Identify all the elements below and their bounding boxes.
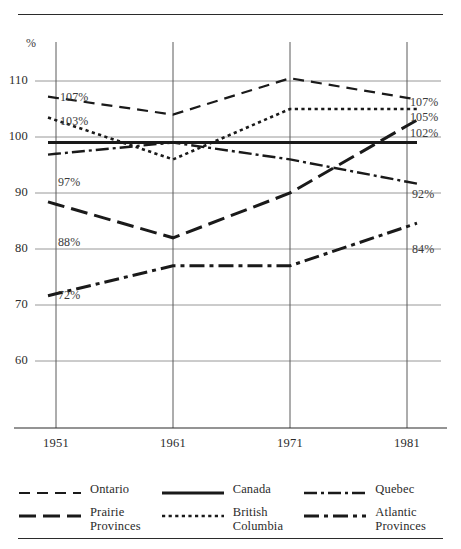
x-tick-label-1971: 1971 [265,436,315,451]
legend-label: Quebec [375,483,414,497]
legend-item-quebec[interactable]: Quebec [303,483,446,504]
legend-column-1: CanadaBritishColumbia [161,483,304,533]
legend-item-atlantic[interactable]: AtlanticProvinces [303,506,446,527]
legend-label-line2: Columbia [233,520,284,534]
y-axis-unit-label: % [26,36,36,51]
legend-label: BritishColumbia [233,506,284,533]
series-line-atlantic-provinces [48,223,417,296]
data-label-right-2: 102% [410,126,438,141]
chart-page: %110100908070601951196119711981107%103%9… [0,0,461,549]
x-tick-label-1961: 1961 [148,436,198,451]
data-label-right-4: 84% [412,242,434,257]
legend-item-british[interactable]: BritishColumbia [161,506,304,527]
legend-label: AtlanticProvinces [375,506,426,533]
data-label-left-2: 97% [58,175,80,190]
legend-label: Canada [233,483,271,497]
legend-label-line1: Ontario [90,483,129,497]
y-tick-label-100: 100 [0,129,28,144]
bottom-rule [18,538,443,539]
y-tick-label-70: 70 [0,297,28,312]
chart-legend: OntarioPrairieProvincesCanadaBritishColu… [18,483,446,533]
legend-column-0: OntarioPrairieProvinces [18,483,161,533]
y-tick-label-110: 110 [0,73,28,88]
data-label-left-3: 88% [58,235,80,250]
y-tick-label-90: 90 [0,185,28,200]
legend-item-ontario[interactable]: Ontario [18,483,161,504]
legend-label-line1: Atlantic [375,506,426,520]
data-label-right-3: 92% [412,187,434,202]
legend-line-swatch-icon [161,486,225,500]
legend-line-swatch-icon [161,509,225,523]
legend-item-prairie[interactable]: PrairieProvinces [18,506,161,527]
legend-line-swatch-icon [18,486,82,500]
legend-label-line1: British [233,506,284,520]
x-tick-label-1981: 1981 [382,436,432,451]
y-tick-label-60: 60 [0,353,28,368]
data-label-left-0: 107% [60,90,88,105]
series-line-prairie-provinces [48,120,417,238]
legend-label-line2: Provinces [90,520,141,534]
series-line-quebec [48,143,417,184]
legend-label-line1: Prairie [90,506,141,520]
data-label-left-4: 72% [58,288,80,303]
legend-label-line2: Provinces [375,520,426,534]
top-rule [18,14,443,15]
data-label-right-1: 105% [410,110,438,125]
legend-column-2: QuebecAtlanticProvinces [303,483,446,533]
legend-line-swatch-icon [303,509,367,523]
x-tick-label-1951: 1951 [31,436,81,451]
legend-label-line1: Quebec [375,483,414,497]
legend-line-swatch-icon [303,486,367,500]
legend-label: PrairieProvinces [90,506,141,533]
legend-item-canada[interactable]: Canada [161,483,304,504]
data-label-right-0: 107% [410,95,438,110]
legend-label: Ontario [90,483,129,497]
y-tick-label-80: 80 [0,241,28,256]
data-label-left-1: 103% [60,114,88,129]
legend-label-line1: Canada [233,483,271,497]
legend-line-swatch-icon [18,509,82,523]
